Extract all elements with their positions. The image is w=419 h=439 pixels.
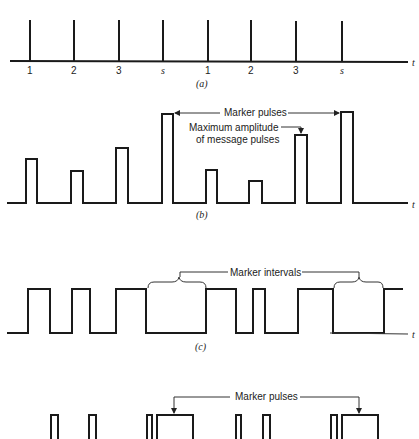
panel-caption: (a) — [196, 78, 208, 90]
marker-pulses-label: Marker pulses — [224, 107, 287, 118]
figure-canvas: 1 2 3 s 1 2 3 s t (a) Marker pulses Maxi… — [0, 0, 419, 439]
slot-label: 1 — [27, 65, 33, 76]
marker-pulses-label: Marker pulses — [235, 391, 298, 402]
panel-caption: (c) — [195, 341, 207, 353]
slot-label: 2 — [248, 65, 254, 76]
marker-intervals-label: Marker intervals — [230, 267, 301, 278]
panel-a: 1 2 3 s 1 2 3 s t (a) — [10, 20, 415, 90]
marker-interval-brace — [148, 277, 206, 288]
arrow — [281, 127, 301, 133]
axis-label-t: t — [412, 57, 415, 68]
panel-b: Marker pulses Maximum amplitude of messa… — [7, 107, 415, 221]
slot-label: s — [161, 65, 165, 76]
slot-label: 2 — [71, 65, 77, 76]
panel-d: Marker pulses — [51, 391, 378, 439]
panel-caption: (b) — [196, 209, 208, 221]
slot-label: 1 — [205, 65, 211, 76]
slot-label: s — [340, 65, 344, 76]
slot-label: 3 — [116, 65, 122, 76]
ppm-pulses — [51, 415, 378, 439]
impulse-train — [30, 20, 342, 62]
slot-label: 3 — [293, 65, 299, 76]
marker-interval-brace — [334, 277, 383, 288]
max-amplitude-label: Maximum amplitude — [189, 122, 279, 133]
max-amplitude-label: of message pulses — [196, 134, 279, 145]
panel-c: Marker intervals t (c) — [7, 267, 415, 353]
axis-label-t: t — [412, 329, 415, 340]
axis-label-t: t — [412, 199, 415, 210]
arrow — [300, 397, 359, 413]
pdm-waveform — [7, 289, 403, 333]
arrow — [174, 397, 230, 413]
